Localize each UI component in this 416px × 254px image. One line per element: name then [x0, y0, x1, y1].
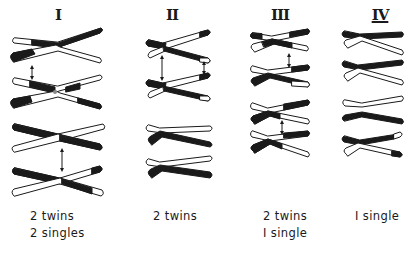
- bivalent-iv-4: [342, 132, 402, 157]
- group-label-iii: III: [271, 6, 289, 24]
- caption-line: 2 twins: [30, 208, 85, 225]
- bivalent-ii-3: [146, 125, 212, 147]
- caption-group-i: 2 twins 2 singles: [30, 208, 85, 242]
- caption-line: I single: [355, 208, 399, 225]
- group-i-figures: [11, 28, 105, 196]
- caption-line: 2 twins: [263, 208, 307, 225]
- group-label-iv: IV: [372, 6, 389, 24]
- bivalent-iv-1: [342, 31, 404, 55]
- bivalent-iii-2: [251, 65, 310, 87]
- caption-group-ii: 2 twins: [153, 208, 197, 225]
- chromosome-crossover-diagram: I II III IV 2 twins 2 singles 2 twins 2 …: [0, 0, 416, 254]
- bivalent-i-4: [12, 166, 103, 196]
- bivalent-ii-4: [146, 156, 212, 178]
- bivalent-ii-1: [146, 30, 210, 63]
- group-ii-figures: [146, 30, 212, 178]
- group-iv-figures: [342, 31, 404, 157]
- bivalent-i-3: [12, 124, 105, 152]
- caption-line: 2 singles: [30, 225, 85, 242]
- bivalent-iv-2: [342, 60, 404, 85]
- bivalent-ii-2: [146, 73, 210, 101]
- caption-line: 2 twins: [153, 208, 197, 225]
- group-label-ii: II: [166, 6, 178, 24]
- bivalent-i-1: [11, 28, 103, 63]
- bivalent-iii-4: [251, 131, 310, 157]
- bivalent-iii-1: [251, 29, 310, 52]
- caption-group-iv: I single: [355, 208, 399, 225]
- bivalent-iii-3: [251, 100, 310, 124]
- bivalent-i-2: [11, 75, 102, 109]
- group-label-i: I: [55, 6, 61, 24]
- caption-line: I single: [263, 225, 307, 242]
- group-iii-figures: [251, 29, 310, 157]
- bivalent-iv-3: [342, 96, 403, 124]
- caption-group-iii: 2 twins I single: [263, 208, 307, 242]
